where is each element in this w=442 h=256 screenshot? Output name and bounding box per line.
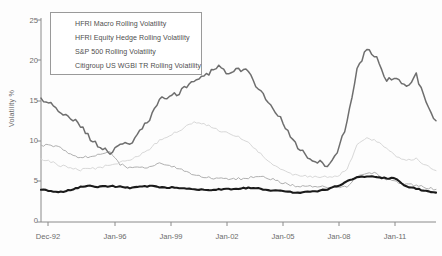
x-axis-ticks <box>48 222 395 226</box>
series-line-hfri_equity_hedge <box>41 122 436 178</box>
legend-label: HFRI Equity Hedge Rolling Volatility <box>75 34 190 42</box>
legend-item-citigroup-wgbi: Citigroup US WGBI TR Rolling Volatility <box>55 59 198 73</box>
legend-label: Citigroup US WGBI TR Rolling Volatility <box>75 62 201 70</box>
legend-item-hfri-equity-hedge: HFRI Equity Hedge Rolling Volatility <box>55 31 198 45</box>
legend-label: S&P 500 Rolling Volatility <box>75 48 156 56</box>
legend-label: HFRI Macro Rolling Volatility <box>75 20 166 28</box>
volatility-line-chart: Volatility % 25 20 15 10 5 0 Dec-92 Jan-… <box>0 0 442 256</box>
legend-item-hfri-macro: HFRI Macro Rolling Volatility <box>55 17 198 31</box>
legend-item-sp500: S&P 500 Rolling Volatility <box>55 45 198 59</box>
chart-legend: HFRI Macro Rolling Volatility HFRI Equit… <box>50 12 202 75</box>
y-axis-ticks <box>37 20 41 222</box>
series-line-citigroup_wgbi <box>41 176 436 193</box>
